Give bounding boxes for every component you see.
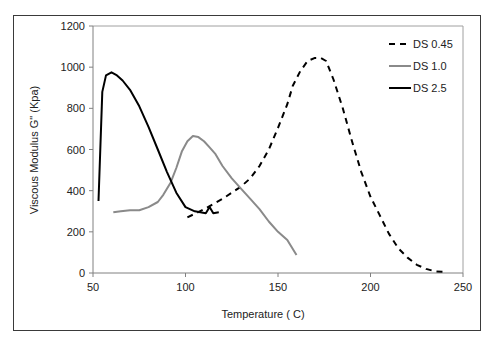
y-tick-label: 600 xyxy=(67,144,85,156)
x-tick-label: 250 xyxy=(454,281,472,293)
y-axis-title: Viscous Modulus G" (Kpa) xyxy=(28,86,40,214)
legend-label: DS 2.5 xyxy=(413,82,447,94)
legend-label: DS 0.45 xyxy=(413,38,453,50)
series-ds-0-45 xyxy=(187,58,446,272)
x-tick-label: 150 xyxy=(269,281,287,293)
legend: DS 0.45DS 1.0DS 2.5 xyxy=(389,38,453,94)
y-tick-label: 0 xyxy=(79,267,85,279)
x-tick-label: 200 xyxy=(361,281,379,293)
y-tick-label: 1000 xyxy=(61,61,85,73)
x-tick-label: 50 xyxy=(87,281,99,293)
legend-label: DS 1.0 xyxy=(413,60,447,72)
y-tick-label: 200 xyxy=(67,226,85,238)
y-tick-label: 800 xyxy=(67,102,85,114)
series-ds-2-5 xyxy=(99,72,219,213)
x-axis-title: Temperature ( C) xyxy=(221,308,304,320)
x-tick-label: 100 xyxy=(176,281,194,293)
y-tick-label: 1200 xyxy=(61,20,85,32)
plot-area-border xyxy=(93,26,463,273)
y-axis: 020040060080010001200 xyxy=(61,20,93,279)
y-tick-label: 400 xyxy=(67,185,85,197)
series-ds-1-0 xyxy=(113,136,296,255)
series-layer xyxy=(99,58,447,272)
x-axis: 50100150200250 xyxy=(87,273,472,293)
chart-canvas: 020040060080010001200 50100150200250 DS … xyxy=(0,0,496,346)
